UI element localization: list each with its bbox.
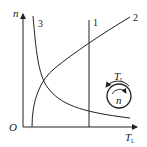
curve-1-label: 1 [93, 17, 98, 28]
x-axis-label-sub: L [131, 138, 135, 144]
y-axis-label: n [13, 7, 19, 19]
curve-3-label: 3 [38, 18, 43, 29]
shaft-inset: T L n [106, 70, 131, 108]
load-characteristics-diagram: n O T L 1 2 3 T L n [0, 0, 147, 147]
curve-2-label: 2 [133, 12, 138, 23]
origin-label: O [9, 121, 17, 133]
inset-speed-label: n [116, 94, 122, 106]
